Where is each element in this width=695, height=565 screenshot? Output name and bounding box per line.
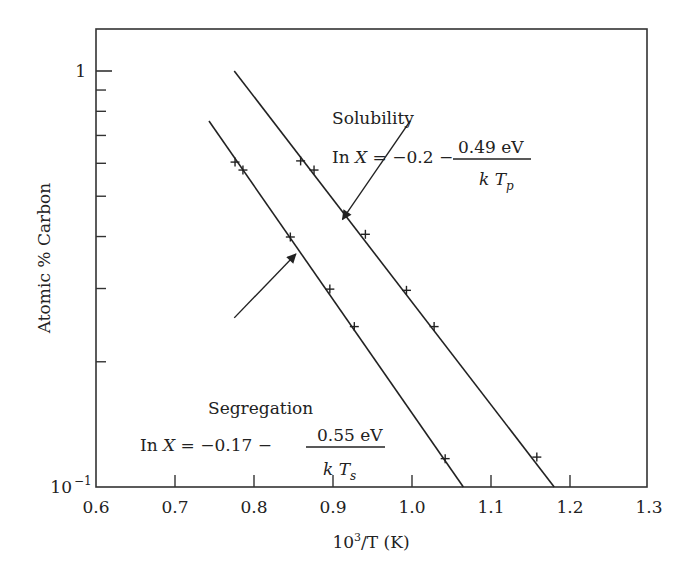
annotation-title: Segregation [208,398,313,418]
y-tick-label: 1 [75,61,86,81]
x-tick-label: 0.6 [82,497,109,517]
equation-lhs: In X = −0.2 − [332,147,453,167]
data-point-cross-marker [350,322,359,331]
annotation-solubility: SolubilityIn X = −0.2 − 0.49 eVk Tp [332,108,531,219]
data-point-cross-marker [402,286,411,295]
annotations-layer: SolubilityIn X = −0.2 − 0.49 eVk TpSegre… [140,108,531,483]
fraction-numerator: 0.49 eV [458,137,524,157]
plot-frame [96,29,647,487]
series-solubility [234,71,554,487]
x-tick-label: 1.0 [398,497,425,517]
data-point-cross-marker [325,285,334,294]
annotation-title: Solubility [332,108,414,128]
x-tick-label: 1.2 [556,497,583,517]
y-tick-label-exponent: −1 [74,474,92,488]
y-axis-ticks: 110−1 [50,61,112,497]
annotation-arrow [234,254,296,318]
fit-line [234,71,554,487]
data-point-cross-marker [296,156,305,165]
data-point-cross-marker [430,322,439,331]
data-point-cross-marker [231,158,240,167]
annotation-arrow [342,121,410,220]
annotation-segregation: SegregationIn X = −0.17 − 0.55 eVk Ts [140,254,385,483]
x-tick-label: 1.1 [477,497,504,517]
x-tick-label: 0.9 [319,497,346,517]
x-tick-label: 1.3 [635,497,662,517]
x-tick-label: 0.7 [161,497,188,517]
fraction-numerator: 0.55 eV [317,425,383,445]
x-axis-ticks: 0.60.70.80.91.01.11.21.3 [82,475,662,517]
x-tick-label: 0.8 [240,497,267,517]
fraction-denominator: k Ts [323,459,356,483]
y-axis-title: Atomic % Carbon [34,183,54,334]
fraction-denominator: k Tp [479,169,514,193]
chart: 0.60.70.80.91.01.11.21.3 110−1 Solubilit… [0,0,695,565]
x-axis-title: 103/T (K) [332,531,409,552]
data-point-cross-marker [310,166,319,175]
y-tick-label: 10 [50,477,72,497]
equation-lhs: In X = −0.17 − [140,435,272,455]
